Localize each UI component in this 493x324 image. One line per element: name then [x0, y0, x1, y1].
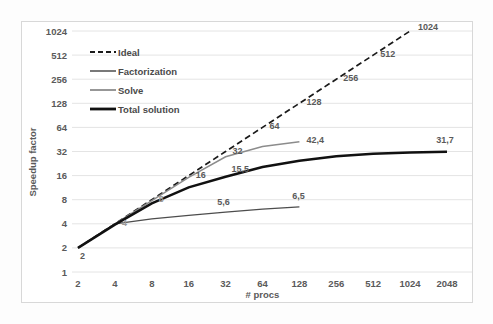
y-axis-title: Speedup factor [27, 127, 38, 196]
chart-plot-area: 1248163264128256512102424816326412825651… [0, 0, 493, 324]
y-axis-tick-label: 128 [51, 98, 67, 109]
legend-label: Solve [118, 85, 143, 96]
y-axis-tick-label: 4 [62, 218, 68, 229]
data-point-label: 64 [270, 121, 280, 131]
y-axis-tick-label: 1024 [46, 26, 68, 37]
series-line-solve [78, 142, 299, 248]
data-point-label: 128 [306, 97, 321, 107]
x-axis-title: # procs [246, 289, 280, 300]
data-point-label: 8 [159, 194, 164, 204]
data-point-label: 1024 [418, 22, 438, 32]
y-axis-tick-label: 32 [56, 146, 67, 157]
x-axis-tick-label: 2 [75, 278, 80, 289]
legend-label: Total solution [118, 104, 180, 115]
y-axis-tick-label: 1 [62, 267, 68, 278]
x-axis-tick-label: 128 [291, 278, 307, 289]
x-axis-tick-label: 1024 [400, 278, 422, 289]
y-axis-tick-label: 16 [56, 170, 67, 181]
y-axis-tick-label: 512 [51, 50, 67, 61]
x-axis-tick-label: 4 [112, 278, 118, 289]
data-point-label: 42,4 [306, 135, 324, 145]
y-axis-tick-label: 256 [51, 74, 67, 85]
legend-label: Ideal [118, 47, 140, 58]
y-axis-tick-label: 2 [62, 242, 67, 253]
data-point-label: 31,7 [436, 135, 454, 145]
data-point-label: 16 [196, 170, 206, 180]
x-axis-tick-label: 32 [220, 278, 231, 289]
data-point-label: 2 [80, 251, 85, 261]
x-axis-tick-label: 16 [183, 278, 194, 289]
y-axis-tick-label: 8 [62, 194, 67, 205]
data-point-label: 512 [380, 49, 395, 59]
legend-label: Factorization [118, 66, 177, 77]
data-point-label: 15,5 [232, 164, 250, 174]
data-point-label: 5,6 [217, 197, 230, 207]
data-point-label: 256 [343, 73, 358, 83]
x-axis-tick-label: 64 [257, 278, 268, 289]
x-axis-tick-label: 2048 [436, 278, 457, 289]
y-axis-tick-label: 64 [56, 122, 67, 133]
x-axis-tick-label: 256 [328, 278, 344, 289]
chart-container: 1248163264128256512102424816326412825651… [0, 0, 493, 324]
x-axis-tick-label: 512 [365, 278, 381, 289]
data-point-label: 4 [122, 218, 127, 228]
data-point-label: 32 [233, 146, 243, 156]
data-point-label: 6,5 [292, 191, 305, 201]
x-axis-tick-label: 8 [149, 278, 154, 289]
